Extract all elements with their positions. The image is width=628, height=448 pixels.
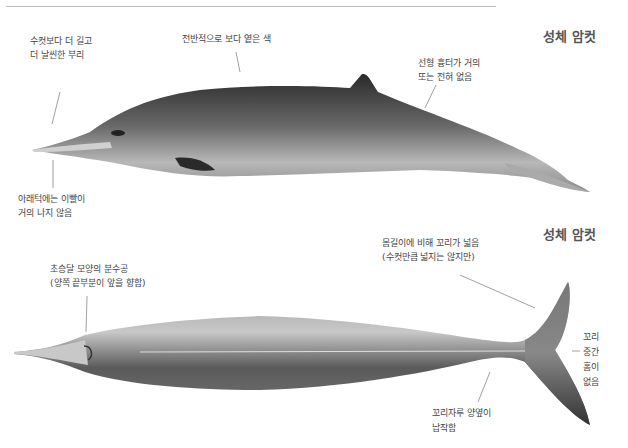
whale-illustrations: [0, 0, 628, 448]
annotation-beak: 수컷보다 더 길고 더 날씬한 부리: [30, 34, 92, 62]
whale-side-view: [32, 74, 590, 192]
annotation-fluke: 몸길이에 비해 꼬리가 넓음 (수컷만큼 넓지는 않지만): [382, 236, 479, 264]
figure-title-bottom: 성체 암컷: [543, 224, 596, 243]
annotation-ridge: 선형 흉터가 거의 또는 전혀 없음: [418, 56, 480, 84]
annotation-color: 전반적으로 보다 옅은 색: [182, 32, 271, 46]
annotation-peduncle: 꼬리자루 양옆이 납작함: [432, 406, 491, 436]
annotation-notch: 꼬리 중간 홈이 없음: [583, 330, 599, 390]
annotation-blowhole: 초승달 모양의 분수공 (양쪽 끝부분이 앞을 향함): [50, 262, 146, 290]
annotation-teeth: 아래턱에는 이빨이 거의 나지 않음: [18, 192, 85, 220]
figure-title-top: 성체 암컷: [543, 26, 596, 45]
whale-top-view: [14, 282, 590, 425]
